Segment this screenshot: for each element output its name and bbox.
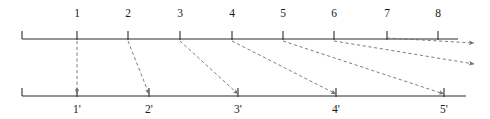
map-6-to-offright-lower [334,41,474,64]
lower-timeline-tick-label-1: 1' [73,103,81,115]
map-3-to-3prime [180,41,238,94]
upper-timeline-tick-label-2: 2 [125,7,131,19]
upper-timeline: 12345678 [22,7,458,40]
timeline-svg-canvas: 12345678 1'2'3'4'5' [0,0,490,119]
lower-timeline-tick-label-3: 3' [234,103,242,115]
upper-timeline-tick-label-5: 5 [280,7,286,19]
upper-timeline-tick-label-4: 4 [229,7,235,19]
upper-timeline-tick-label-3: 3 [177,7,183,19]
map-2-to-2prime [128,41,149,94]
upper-timeline-tick-label-1: 1 [74,7,80,19]
lower-timeline-tick-label-4: 4' [332,103,340,115]
timeline-mapping-diagram: 12345678 1'2'3'4'5' [0,0,490,119]
lower-timeline-tick-label-5: 5' [440,103,448,115]
upper-timeline-tick-label-8: 8 [435,7,441,19]
lower-timeline-tick-label-2: 2' [145,103,153,115]
map-4-to-4prime [232,41,336,94]
map-5-to-5prime [283,41,444,94]
upper-timeline-tick-label-7: 7 [384,7,390,19]
mapping-arrows [77,38,474,94]
lower-timeline: 1'2'3'4'5' [22,88,466,115]
upper-timeline-tick-label-6: 6 [331,7,337,19]
